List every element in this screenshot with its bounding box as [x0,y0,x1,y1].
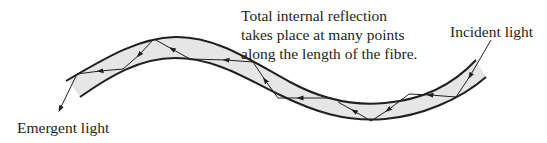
caption-line-3: along the length of the fibre. [241,44,417,63]
caption-line-1: Total internal reflection [241,6,417,25]
incident-light-label: Incident light [450,22,533,41]
optical-fibre-diagram: Total internal reflection takes place at… [0,0,547,143]
caption-block: Total internal reflection takes place at… [241,6,417,63]
caption-line-2: takes place at many points [241,25,417,44]
emergent-light-label: Emergent light [17,118,109,137]
